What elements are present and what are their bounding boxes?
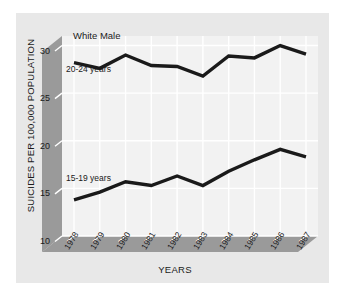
y-tick-label: 15 <box>28 188 50 198</box>
chart-canvas <box>0 0 345 296</box>
y-tick-label: 20 <box>28 141 50 151</box>
x-axis-title: YEARS <box>120 264 230 275</box>
series-label-15-19: 15-19 years <box>66 173 111 183</box>
y-tick-label: 10 <box>28 236 50 246</box>
y-tick-label: 30 <box>28 46 50 56</box>
series-label-20-24: 20-24 years <box>66 64 111 74</box>
figure: White Male 20-24 years 15-19 years SUICI… <box>0 0 345 296</box>
y-tick-label: 25 <box>28 93 50 103</box>
chart-title: White Male <box>73 30 121 41</box>
